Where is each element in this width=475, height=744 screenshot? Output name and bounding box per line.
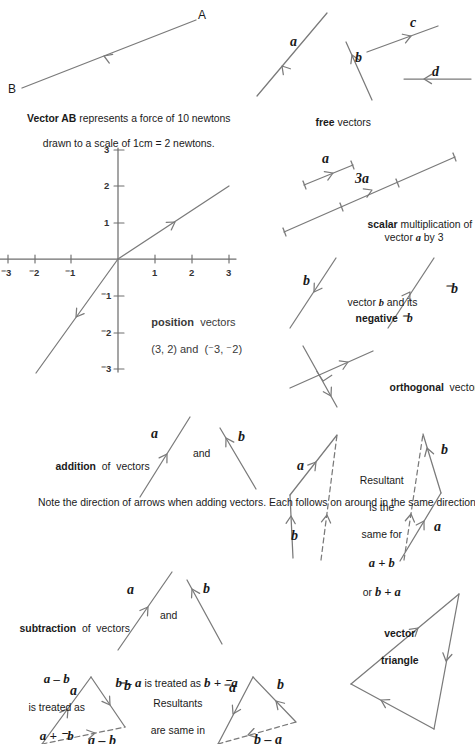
subtraction-and: and (160, 610, 177, 623)
addition-caption: addition of vectors (44, 448, 150, 486)
addition-note: Note the direction of arrows when adding… (38, 496, 278, 510)
scalar-label-a: a (322, 150, 329, 167)
y-axis-tick-2: 2 (104, 180, 109, 192)
free-vector-label-c: c (410, 14, 416, 31)
resultant-note: Resultant is the same for a + b or b + a (340, 460, 412, 614)
y-axis-tick-3: 3 (104, 144, 109, 156)
vector-ab-caption-bold: Vector AB (27, 113, 76, 124)
addition-label-a: a (151, 425, 158, 442)
position-caption-bold: position (151, 316, 194, 328)
subtraction-left-title-line3: a + ⁻b (40, 728, 74, 743)
free-vector-label-a: a (290, 33, 297, 50)
negative-label-neg-b: ⁻b (444, 280, 458, 297)
resultant-left-label-b: b (291, 527, 298, 544)
vector-ab-caption-rest: represents a force of 10 newtons (76, 113, 230, 124)
subtraction-caption-rest: of vectors (76, 623, 130, 634)
addition-caption-bold: addition (56, 461, 96, 472)
label-point-a: A (198, 8, 206, 23)
subtraction-middle-note: Resultants are same in size but opposite… (137, 683, 207, 744)
x-axis-tick-3: 3 (226, 267, 231, 279)
vector-ab-caption: Vector AB represents a force of 10 newto… (8, 100, 238, 163)
x-axis-tick-neg2: ⁻2 (29, 267, 39, 279)
subtraction-tri-left-label-neg-b: ⁻b (117, 677, 131, 694)
subtraction-left-title: a – b is treated as a + ⁻b (8, 657, 94, 744)
negative-caption-line2-bold: negative (356, 313, 398, 324)
label-point-b: B (8, 82, 16, 97)
subtraction-left-title-line2: is treated as (28, 702, 85, 713)
scalar-caption-line2-pre: vector (385, 232, 416, 243)
subtraction-caption-bold: subtraction (20, 623, 77, 634)
free-vector-label-d: d (432, 63, 439, 80)
addition-and: and (193, 448, 210, 461)
orthogonal-caption-bold: orthogonal (390, 382, 444, 393)
vector-triangle-line1: vector (384, 628, 415, 639)
negative-caption-line2: negative ⁻b (344, 298, 413, 338)
position-vectors-caption: position vectors (3, 2) and (⁻3, ⁻2) (139, 303, 242, 370)
free-vectors-caption: free vectors (304, 104, 371, 142)
orthogonal-vectors-diagram (290, 346, 373, 407)
y-axis-tick-neg2: ⁻2 (101, 327, 111, 339)
vector-ab-diagram (22, 20, 196, 88)
scalar-label-3a: 3a (355, 170, 369, 187)
resultant-line5-pre: or (363, 587, 375, 598)
resultant-left-label-a: a (297, 457, 304, 474)
vector-triangle-line2: triangle (381, 655, 419, 666)
resultant-line4: a + b (369, 556, 395, 570)
orthogonal-caption-rest: vectors (444, 382, 475, 393)
y-axis-tick-neg3: ⁻3 (101, 363, 111, 375)
subtraction-label-b: b (203, 580, 210, 597)
free-vector-label-b: b (355, 49, 362, 66)
resultant-right-label-a: a (434, 518, 441, 535)
subtraction-tri-right-label-b-minus-a: b – a (254, 731, 282, 744)
free-vectors-caption-rest: vectors (335, 117, 371, 128)
y-axis-tick-neg1: ⁻1 (101, 290, 111, 302)
resultant-line1: Resultant (360, 475, 404, 486)
subtraction-caption: subtraction of vectors (8, 610, 130, 648)
free-vectors-diagram (257, 13, 471, 100)
subtraction-note-line1: Resultants (153, 698, 202, 709)
subtraction-label-a: a (127, 581, 134, 598)
x-axis-tick-neg1: ⁻1 (65, 267, 75, 279)
resultant-line5-vec: b + a (375, 585, 401, 599)
x-axis-tick-neg3: ⁻3 (1, 267, 11, 279)
negative-label-b: b (303, 272, 310, 289)
subtraction-tri-left-label-a-minus-b: a – b (88, 732, 116, 744)
x-axis-tick-2: 2 (189, 267, 194, 279)
scalar-caption-line2: vector a by 3 (373, 219, 443, 257)
resultant-line2: is the (369, 502, 394, 513)
subtraction-tri-left-label-a: a (70, 682, 77, 699)
position-caption-line2: (3, 2) and (⁻3, ⁻2) (151, 343, 242, 355)
free-vectors-caption-bold: free (316, 117, 335, 128)
orthogonal-caption: orthogonal vectors (378, 369, 475, 407)
negative-caption-line2-vec: ⁻b (398, 311, 413, 325)
subtraction-tri-right-label-neg-a: ⁻a (222, 679, 236, 696)
subtraction-tri-right-label-b: b (277, 676, 284, 693)
x-axis-tick-1: 1 (152, 267, 157, 279)
scalar-caption-line2-post: by 3 (421, 232, 444, 243)
vectors-reference-sheet: A B Vector AB represents a force of 10 n… (0, 0, 475, 744)
subtraction-left-title-line1: a – b (44, 671, 70, 686)
vector-ab-caption-line2: drawn to a scale of 1cm = 2 newtons. (43, 138, 215, 149)
y-axis-tick-1: 1 (104, 217, 109, 229)
vector-triangle-caption: vector triangle (358, 613, 430, 681)
resultant-line3: same for (362, 529, 402, 540)
addition-label-b: b (238, 428, 245, 445)
addition-caption-rest: of vectors (96, 461, 150, 472)
resultant-right-label-b: b (441, 441, 448, 458)
subtraction-note-line2: are same in (151, 725, 205, 736)
position-caption-rest: vectors (194, 316, 236, 328)
